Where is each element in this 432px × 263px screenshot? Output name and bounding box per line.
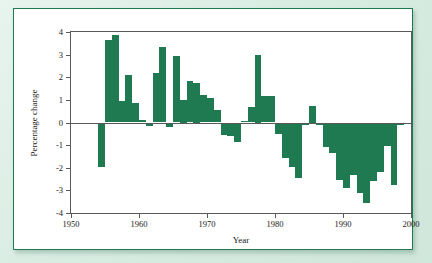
bar [159, 47, 166, 123]
bar [377, 123, 384, 173]
bar [384, 123, 391, 147]
y-axis-tick [66, 77, 71, 78]
bar [255, 55, 262, 123]
y-axis-tick-label: 3 [59, 50, 63, 59]
y-axis-tick [66, 123, 71, 124]
bar [193, 83, 200, 123]
bar [391, 123, 398, 185]
x-axis-tick [411, 213, 412, 218]
bar [336, 123, 343, 181]
x-axis-tick [275, 213, 276, 218]
zero-baseline [71, 123, 411, 124]
bar [323, 123, 330, 148]
bar [275, 123, 282, 134]
y-axis-tick-label: 1 [59, 96, 63, 105]
y-axis-tick-label: 0 [59, 118, 63, 127]
x-axis-tick-label: 1960 [131, 220, 148, 229]
y-axis-tick [66, 190, 71, 191]
bar [248, 107, 255, 123]
y-axis-tick [66, 145, 71, 146]
bar [227, 123, 234, 137]
bar [200, 95, 207, 122]
bar [180, 100, 187, 123]
x-axis-tick [207, 213, 208, 218]
bar [132, 103, 139, 122]
x-axis-tick-label: 2000 [403, 220, 420, 229]
x-axis-tick-label: 1950 [63, 220, 80, 229]
bar [295, 123, 302, 178]
x-axis-tick [71, 213, 72, 218]
bar [214, 110, 221, 122]
bar [153, 73, 160, 123]
bar [119, 101, 126, 122]
bar [261, 96, 268, 122]
figure-card: Percentage change Year 43210-1-2-3-4 195… [13, 8, 413, 250]
plot-area: 43210-1-2-3-4 195019601970198019902000 [70, 31, 412, 214]
bar [350, 123, 357, 175]
y-axis-title: Percentage change [29, 89, 39, 156]
x-axis-title: Year [70, 235, 412, 245]
x-axis-tick-label: 1970 [199, 220, 216, 229]
y-axis-tick-label: -3 [56, 186, 63, 195]
x-axis-tick-label: 1990 [335, 220, 352, 229]
bar [343, 123, 350, 189]
bar [309, 106, 316, 123]
bar [112, 35, 119, 122]
x-axis-tick [343, 213, 344, 218]
bar [363, 123, 370, 203]
x-axis-tick-label: 1980 [267, 220, 284, 229]
y-axis-tick [66, 168, 71, 169]
bar [282, 123, 289, 158]
y-axis-tick-label: -1 [56, 141, 63, 150]
y-axis-tick [66, 32, 71, 33]
bar [357, 123, 364, 193]
bar [173, 56, 180, 123]
y-axis-tick-label: -2 [56, 164, 63, 173]
bar [268, 96, 275, 122]
bar [370, 123, 377, 182]
y-axis-tick-label: 2 [59, 73, 63, 82]
y-axis-tick-label: -4 [56, 209, 63, 218]
x-axis-tick [139, 213, 140, 218]
bar [221, 123, 228, 135]
bar [105, 40, 112, 123]
bar [187, 81, 194, 123]
bar [207, 98, 214, 123]
y-axis-tick [66, 100, 71, 101]
figure-page: Percentage change Year 43210-1-2-3-4 195… [0, 0, 432, 263]
y-axis-tick [66, 55, 71, 56]
y-axis-tick-label: 4 [59, 28, 63, 37]
bar [289, 123, 296, 167]
bar [98, 123, 105, 167]
bar [234, 123, 241, 142]
bar [125, 75, 132, 123]
bar [329, 123, 336, 154]
